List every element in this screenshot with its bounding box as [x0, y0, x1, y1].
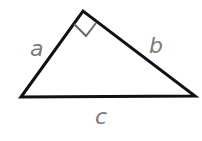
side-label-b: b	[149, 33, 163, 58]
triangle	[21, 11, 195, 97]
side-label-a: a	[30, 36, 43, 61]
side-label-c: c	[95, 104, 107, 129]
right-angle-marker	[74, 23, 96, 36]
right-triangle-diagram: a b c	[0, 0, 202, 141]
